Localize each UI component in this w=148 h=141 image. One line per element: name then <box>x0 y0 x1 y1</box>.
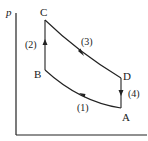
point-label-d: D <box>123 70 131 82</box>
point-label-b: B <box>34 68 41 80</box>
process-3-curve <box>45 20 121 78</box>
process-4-arrow-icon <box>119 90 124 96</box>
process-2-arrow-icon <box>43 39 48 45</box>
point-label-a: A <box>122 111 130 123</box>
process-1-label: (1) <box>77 102 89 114</box>
process-3-label: (3) <box>81 36 93 48</box>
process-4-label: (4) <box>128 88 140 100</box>
y-axis-label: p <box>5 6 12 18</box>
pv-cycle-diagram: p C B D A (2) (3) (4) (1) <box>0 0 148 141</box>
process-2-label: (2) <box>25 39 37 51</box>
point-label-c: C <box>40 6 47 18</box>
